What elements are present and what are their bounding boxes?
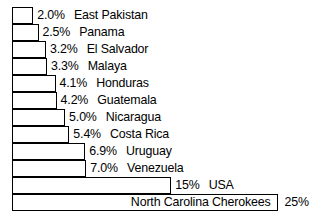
bar-row: 3.3%Malaya — [12, 58, 127, 75]
bar-row: North Carolina Cherokees25% — [12, 194, 309, 211]
bar-category-label: Panama — [70, 24, 124, 41]
bar-row: 4.1%Honduras — [12, 75, 149, 92]
bar-value-label: 3.3% — [51, 58, 79, 75]
bar-annotation: 6.9%Uruguay — [85, 143, 171, 160]
bar-category-label: Venezuela — [118, 160, 184, 177]
bar-value-label: 6.9% — [89, 143, 117, 160]
bar-value-label: 4.2% — [61, 92, 89, 109]
bar-annotation: 5.0%Nicaragua — [65, 109, 161, 126]
bar-category-label: Costa Rica — [101, 126, 169, 143]
bar-annotation: 4.1%Honduras — [56, 75, 149, 92]
bar-rect: North Carolina Cherokees — [12, 194, 278, 211]
bar-value-label: 25% — [285, 194, 309, 211]
bar-annotation: 7.0%Venezuela — [86, 160, 183, 177]
bar-rect — [12, 126, 69, 143]
bar-rect — [12, 143, 85, 160]
bar-row: 2.5%Panama — [12, 24, 124, 41]
horizontal-bar-chart: 2.0%East Pakistan2.5%Panama3.2%El Salvad… — [0, 0, 322, 222]
bar-rect — [12, 92, 57, 109]
bar-category-label: Malaya — [79, 58, 127, 75]
bar-category-label: Uruguay — [117, 143, 172, 160]
bar-row: 6.9%Uruguay — [12, 143, 172, 160]
bar-row: 3.2%El Salvador — [12, 41, 148, 58]
bar-row: 2.0%East Pakistan — [12, 7, 148, 24]
bar-category-label: El Salvador — [78, 41, 149, 58]
bar-value-label: 5.4% — [73, 126, 101, 143]
bar-annotation: 4.2%Guatemala — [57, 92, 157, 109]
bar-rect — [12, 7, 33, 24]
bar-row: 4.2%Guatemala — [12, 92, 157, 109]
bar-rect — [12, 24, 39, 41]
bar-row: 15%USA — [12, 177, 234, 194]
bar-value-label: 7.0% — [90, 160, 118, 177]
bar-annotation: 2.5%Panama — [39, 24, 125, 41]
bar-category-label: East Pakistan — [65, 7, 148, 24]
bar-row: 5.4%Costa Rica — [12, 126, 169, 143]
bar-annotation: 25% — [278, 194, 309, 211]
bar-value-label: 2.0% — [37, 7, 65, 24]
bar-value-label: 2.5% — [43, 24, 71, 41]
bar-category-label: USA — [200, 177, 234, 194]
bar-value-label: 15% — [175, 177, 199, 194]
bar-category-label: Guatemala — [88, 92, 156, 109]
bar-category-label: Honduras — [87, 75, 149, 92]
bar-rect — [12, 177, 171, 194]
bar-value-label: 3.2% — [50, 41, 78, 58]
bar-row: 5.0%Nicaragua — [12, 109, 161, 126]
bar-annotation: 15%USA — [171, 177, 233, 194]
bar-annotation: 2.0%East Pakistan — [33, 7, 147, 24]
bar-value-label: 5.0% — [69, 109, 97, 126]
bar-rect — [12, 41, 46, 58]
bar-annotation: 5.4%Costa Rica — [69, 126, 169, 143]
bar-row: 7.0%Venezuela — [12, 160, 184, 177]
bar-annotation: 3.2%El Salvador — [46, 41, 148, 58]
bar-category-label: North Carolina Cherokees — [131, 194, 271, 211]
bar-annotation: 3.3%Malaya — [47, 58, 127, 75]
bar-category-label: Nicaragua — [97, 109, 161, 126]
bar-value-label: 4.1% — [60, 75, 88, 92]
bar-rect — [12, 58, 47, 75]
bar-rect — [12, 109, 65, 126]
bar-rect — [12, 160, 86, 177]
bar-rect — [12, 75, 56, 92]
